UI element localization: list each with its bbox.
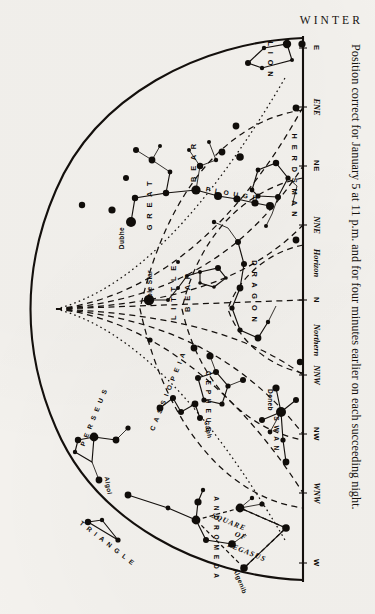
label-great-bear: G R E A T bbox=[145, 180, 154, 231]
compass-label-nw: NW bbox=[312, 427, 321, 441]
star-chart-page: WINTER Position correct for January 5 at… bbox=[0, 0, 375, 614]
label-cassiopeia: C A S S I O P E I A bbox=[149, 350, 187, 431]
label-herdsman: H E R D S M A N bbox=[290, 133, 299, 218]
compass-label-wnw: WNW bbox=[312, 483, 321, 504]
compass-labels: E ENE NE NNE Horizon N Northern NNW NW W… bbox=[312, 45, 321, 567]
label-deneb: Deneb bbox=[267, 389, 274, 411]
axis-word-northern: Northern bbox=[312, 323, 321, 356]
sky-map: E ENE NE NNE Horizon N Northern NNW NW W… bbox=[0, 0, 375, 614]
label-little-bear-little: L I T T L E bbox=[169, 264, 178, 320]
star-caph bbox=[197, 415, 203, 421]
label-dragon: D R A G O N bbox=[250, 260, 259, 323]
compass-label-nne: NNE bbox=[312, 215, 321, 234]
label-little-bear-bear: B E A R bbox=[183, 272, 192, 312]
label-bear: B E A R bbox=[189, 142, 198, 182]
constellation-labels: L I O N G R E A T B E A R P L O U G H H … bbox=[78, 42, 299, 580]
compass-label-e: E bbox=[312, 45, 321, 51]
label-algol: Algol bbox=[102, 476, 113, 495]
azimuth-lines bbox=[56, 78, 303, 540]
compass-label-ene: ENE bbox=[312, 97, 321, 116]
label-lion: L I O N bbox=[266, 42, 275, 79]
label-square-of-pegasus-line3: PEGASUS bbox=[226, 540, 267, 564]
star-algol bbox=[96, 477, 103, 484]
constellation-lines-cepheus bbox=[198, 356, 243, 404]
label-swan: S W A N bbox=[273, 416, 280, 452]
label-square-of-pegasus-line2: OF bbox=[233, 529, 248, 542]
star-algenib bbox=[240, 564, 248, 572]
compass-label-w: W bbox=[312, 559, 321, 567]
label-andromeda: A N D R O M E D A bbox=[213, 496, 220, 579]
label-algenib: Algenib bbox=[231, 567, 248, 595]
stars-cepheus bbox=[195, 352, 246, 406]
compass-label-ne: NE bbox=[312, 160, 321, 172]
compass-label-nnw: NNW bbox=[312, 364, 321, 385]
label-dubhe: Dubhe bbox=[118, 227, 125, 249]
label-pole-star: Pole Star bbox=[146, 270, 153, 302]
stars-great-bear bbox=[79, 140, 274, 227]
axis-word-horizon: Horizon bbox=[312, 248, 321, 278]
compass-label-n: N bbox=[312, 297, 321, 303]
